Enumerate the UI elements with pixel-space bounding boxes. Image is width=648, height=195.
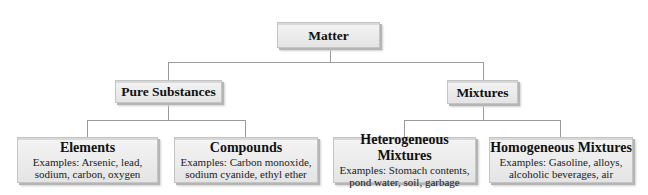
node-homogeneous-mixtures: Homogeneous Mixtures Examples: Gasoline,…	[489, 137, 633, 183]
node-pure-substances: Pure Substances	[115, 80, 222, 103]
connector-pure-down	[168, 103, 169, 120]
node-title: Compounds	[210, 140, 282, 156]
node-examples: sodium, carbon, oxygen	[35, 168, 141, 181]
connector-pure-horizontal	[87, 120, 245, 121]
connector-pure-up	[168, 62, 169, 80]
connector-mixtures-up	[483, 62, 484, 80]
node-title: Pure Substances	[121, 84, 216, 99]
node-compounds: Compounds Examples: Carbon monoxide, sod…	[174, 137, 318, 183]
node-examples: alcoholic beverages, air	[509, 168, 613, 181]
connector-mixtures-down	[483, 104, 484, 120]
node-examples: Examples: Arsenic, lead,	[33, 156, 142, 169]
node-examples: Examples: Gasoline, alloys,	[500, 156, 623, 169]
node-matter: Matter	[277, 22, 380, 48]
node-examples: sodium cyanide, ethyl ether	[185, 168, 307, 181]
connector-homogeneous-up	[560, 120, 561, 137]
node-examples: Examples: Carbon monoxide,	[180, 156, 311, 169]
node-examples: Examples: Stomach contents,	[340, 164, 470, 177]
node-title: Homogeneous Mixtures	[490, 140, 632, 156]
connector-mixtures-horizontal	[404, 120, 561, 121]
node-title: Elements	[60, 140, 115, 156]
connector-matter-down	[330, 48, 331, 63]
connector-compounds-up	[245, 120, 246, 137]
node-title: Heterogeneous Mixtures	[334, 132, 475, 164]
node-title: Mixtures	[456, 85, 508, 100]
node-heterogeneous-mixtures: Heterogeneous Mixtures Examples: Stomach…	[333, 137, 476, 183]
node-mixtures: Mixtures	[447, 80, 518, 104]
node-examples: pond water, soil, garbage	[349, 176, 459, 189]
node-title: Matter	[308, 28, 348, 43]
node-elements: Elements Examples: Arsenic, lead, sodium…	[17, 137, 158, 183]
connector-elements-up	[87, 120, 88, 137]
connector-level1-horizontal	[168, 62, 484, 63]
